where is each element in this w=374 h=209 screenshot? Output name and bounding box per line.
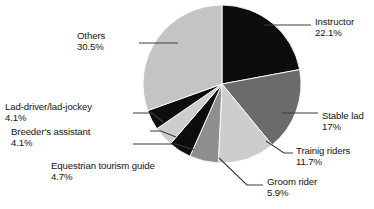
- slice-label-breeders-assistant-percent: 4.1%: [11, 137, 143, 148]
- pie-slice-group: [143, 5, 301, 163]
- slice-label-training-riders-percent: 11.7%: [296, 156, 350, 167]
- slice-label-lad-driver-lad-jockey: Lad-driver/lad-jockey 4.1%: [5, 101, 143, 124]
- slice-label-stable-lad-name: Stable lad: [322, 110, 364, 121]
- slice-label-lad-driver-lad-jockey-percent: 4.1%: [5, 112, 143, 123]
- slice-label-others: Others 30.5%: [77, 30, 135, 53]
- slice-label-training-riders: Trainig riders 11.7%: [296, 145, 350, 168]
- slice-label-others-percent: 30.5%: [77, 41, 135, 52]
- slice-label-stable-lad: Stable lad 17%: [322, 110, 364, 133]
- slice-label-instructor-percent: 22.1%: [315, 27, 354, 38]
- slice-label-breeders-assistant: Breeder's assistant 4.1%: [11, 126, 143, 149]
- slice-label-equestrian-tourism-guide-name: Equestrian tourism guide: [51, 160, 201, 171]
- pie-chart-figure: Instructor 22.1% Stable lad 17% Trainig …: [0, 0, 374, 209]
- slice-label-instructor: Instructor 22.1%: [315, 16, 354, 39]
- slice-label-equestrian-tourism-guide: Equestrian tourism guide 4.7%: [51, 160, 201, 183]
- slice-label-equestrian-tourism-guide-percent: 4.7%: [51, 171, 201, 182]
- slice-label-groom-rider-percent: 5.9%: [267, 187, 317, 198]
- slice-label-groom-rider-name: Groom rider: [267, 176, 317, 187]
- slice-label-training-riders-name: Trainig riders: [296, 145, 350, 156]
- slice-label-others-name: Others: [77, 30, 135, 41]
- slice-label-stable-lad-percent: 17%: [322, 121, 364, 132]
- slice-label-instructor-name: Instructor: [315, 16, 354, 27]
- slice-label-lad-driver-lad-jockey-name: Lad-driver/lad-jockey: [5, 101, 143, 112]
- slice-label-groom-rider: Groom rider 5.9%: [267, 176, 317, 199]
- slice-label-breeders-assistant-name: Breeder's assistant: [11, 126, 143, 137]
